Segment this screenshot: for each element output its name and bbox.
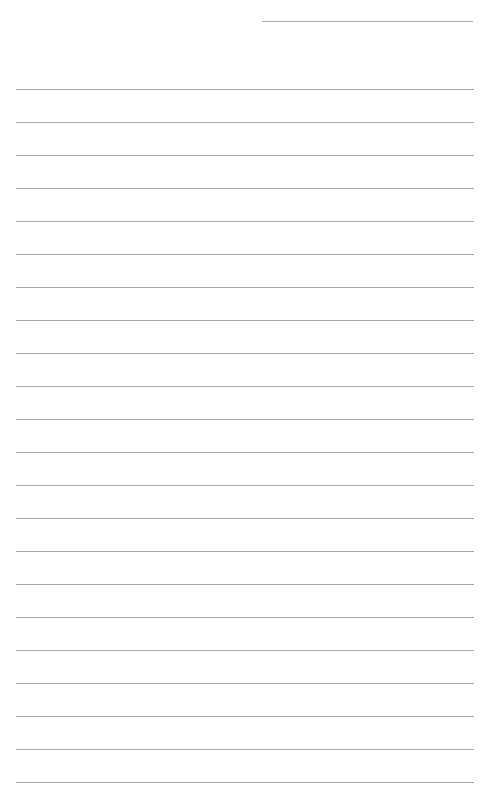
ruled-line [16,551,474,552]
ruled-line [16,221,474,222]
ruled-line [16,89,474,90]
ruled-line [16,155,474,156]
ruled-line [16,683,474,684]
ruled-line [16,353,474,354]
ruled-line [16,122,474,123]
ruled-line [16,254,474,255]
ruled-line [16,749,474,750]
ruled-line [16,188,474,189]
ruled-line [16,419,474,420]
ruled-line [16,287,474,288]
ruled-line [16,782,474,783]
ruled-line [16,485,474,486]
ruled-line [16,650,474,651]
ruled-line [16,716,474,717]
ruled-line [16,518,474,519]
name-date-line [262,21,473,22]
ruled-line [16,386,474,387]
ruled-line [16,452,474,453]
ruled-line [16,584,474,585]
ruled-line [16,617,474,618]
ruled-line [16,320,474,321]
